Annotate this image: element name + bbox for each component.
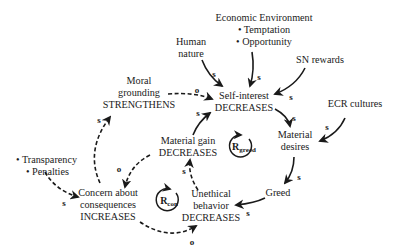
concern-line1: Concern about xyxy=(78,187,138,199)
node-greed: Greed xyxy=(266,187,291,199)
moral-grounding-line2: grounding xyxy=(103,87,175,99)
node-transparency-penalties: • Transparency • Penalties xyxy=(16,154,77,178)
self-interest-line2: DECREASES xyxy=(215,102,273,114)
economic-environment-title: Economic Environment xyxy=(215,12,312,24)
moral-grounding-line3: STRENGTHENS xyxy=(103,99,175,111)
polarity-gain-to-concern: o xyxy=(117,164,122,174)
polarity-self-to-desires: s xyxy=(292,113,296,123)
arrow-concern-to-moral xyxy=(94,117,110,183)
node-human-nature: Human nature xyxy=(176,36,206,60)
arrow-unethical-to-gain xyxy=(190,160,198,190)
polarity-ecr-to-desires: s xyxy=(325,122,329,132)
arrow-self-to-desires xyxy=(275,109,290,126)
node-economic-environment: Economic Environment • Temptation • Oppo… xyxy=(215,12,312,48)
material-gain-line1: Material gain xyxy=(159,135,217,147)
polarity-desires-to-greed: s xyxy=(297,172,301,182)
loop-greed-sub: greed xyxy=(239,146,256,154)
material-desires-line2: desires xyxy=(278,141,313,153)
polarity-econ-to-self: s xyxy=(257,72,261,82)
arrow-greed-to-unethical xyxy=(236,198,265,205)
material-desires-line1: Material xyxy=(278,129,313,141)
moral-grounding-line1: Moral xyxy=(103,75,175,87)
node-ecr-cultures: ECR cultures xyxy=(328,98,383,110)
node-concern-about-consequences: Concern about consequences INCREASES xyxy=(78,187,138,223)
bullet-opportunity: • Opportunity xyxy=(215,36,312,48)
concern-line2: consequences xyxy=(78,199,138,211)
material-gain-line2: DECREASES xyxy=(159,147,217,159)
node-unethical-behavior: Unethical behavior DECREASES xyxy=(182,188,240,224)
node-material-desires: Material desires xyxy=(278,129,313,153)
bullet-penalties: • Penalties xyxy=(16,166,77,178)
node-moral-grounding: Moral grounding STRENGTHENS xyxy=(103,75,175,111)
unethical-line3: DECREASES xyxy=(182,212,240,224)
arrow-econ-to-self xyxy=(250,52,253,86)
arrow-ecr-to-desires xyxy=(320,118,345,141)
causal-loop-diagram: Economic Environment • Temptation • Oppo… xyxy=(0,0,397,252)
human-nature-line2: nature xyxy=(176,48,206,60)
arrow-desires-to-greed xyxy=(285,157,294,183)
node-sn-rewards: SN rewards xyxy=(296,54,344,66)
bullet-temptation: • Temptation xyxy=(215,24,312,36)
polarity-greed-to-unethical: s xyxy=(246,208,250,218)
loop-label-con: Rcon xyxy=(160,195,178,208)
polarity-unethical-to-gain: s xyxy=(182,166,186,176)
polarity-human-to-self: s xyxy=(212,69,216,79)
concern-line3: INCREASES xyxy=(78,211,138,223)
loop-con-sub: con xyxy=(167,200,178,208)
polarity-moral-to-self: o xyxy=(195,85,200,95)
node-material-gain: Material gain DECREASES xyxy=(159,135,217,159)
polarity-transparency-to-concern: s xyxy=(62,198,66,208)
node-self-interest: Self-interest DECREASES xyxy=(215,90,273,114)
arrow-gain-to-concern xyxy=(125,155,150,187)
unethical-line1: Unethical xyxy=(182,188,240,200)
polarity-concern-to-moral: s xyxy=(97,115,101,125)
bullet-transparency: • Transparency xyxy=(16,154,77,166)
arrow-sn-to-self xyxy=(275,68,305,94)
polarity-gain-to-self: s xyxy=(196,108,200,118)
unethical-line2: behavior xyxy=(182,200,240,212)
human-nature-line1: Human xyxy=(176,36,206,48)
polarity-sn-to-self: s xyxy=(289,92,293,102)
loop-label-greed: Rgreed xyxy=(232,141,256,154)
self-interest-line1: Self-interest xyxy=(215,90,273,102)
polarity-concern-to-unethical: o xyxy=(190,237,195,247)
